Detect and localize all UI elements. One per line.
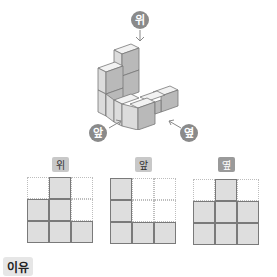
top-view-grid xyxy=(27,177,93,243)
filled-cell xyxy=(49,177,71,199)
empty-cell xyxy=(154,178,176,200)
filled-cell xyxy=(27,221,49,243)
direction-top-badge: 위 xyxy=(131,11,149,29)
filled-cell xyxy=(110,200,132,222)
empty-cell xyxy=(71,199,93,221)
filled-cell xyxy=(215,179,237,201)
side-view-grid xyxy=(193,179,259,245)
empty-cell xyxy=(237,179,259,201)
reason-label: 이유 xyxy=(3,257,33,276)
filled-cell xyxy=(215,223,237,245)
filled-cell xyxy=(215,201,237,223)
filled-cell xyxy=(237,201,259,223)
empty-cell xyxy=(71,177,93,199)
filled-cell xyxy=(132,222,154,244)
cube-structure xyxy=(90,42,190,130)
filled-cell xyxy=(49,221,71,243)
arrow-up-left-icon xyxy=(166,118,182,130)
filled-cell xyxy=(27,199,49,221)
empty-cell xyxy=(27,177,49,199)
filled-cell xyxy=(193,223,215,245)
filled-cell xyxy=(193,201,215,223)
front-view-label: 앞 xyxy=(135,157,152,172)
direction-side-badge: 옆 xyxy=(180,124,198,142)
side-view-label: 옆 xyxy=(218,157,235,172)
empty-cell xyxy=(154,200,176,222)
filled-cell xyxy=(154,222,176,244)
direction-front-badge: 앞 xyxy=(89,124,107,142)
filled-cell xyxy=(237,223,259,245)
empty-cell xyxy=(193,179,215,201)
empty-cell xyxy=(132,178,154,200)
arrow-up-right-icon xyxy=(108,118,124,130)
front-view-grid xyxy=(110,178,176,244)
top-view-label: 위 xyxy=(52,157,69,172)
filled-cell xyxy=(71,221,93,243)
filled-cell xyxy=(49,199,71,221)
empty-cell xyxy=(132,200,154,222)
filled-cell xyxy=(110,222,132,244)
filled-cell xyxy=(110,178,132,200)
